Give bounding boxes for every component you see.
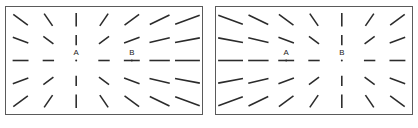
radial-line-segment: [125, 96, 140, 107]
radial-line-segment: [100, 95, 108, 107]
radial-line-segment: [44, 95, 52, 107]
radial-line-segment: [248, 78, 268, 83]
right-panel: AB: [215, 6, 413, 115]
point-marker-b: [131, 60, 133, 62]
radial-line-segment: [279, 14, 294, 25]
radial-line-segment: [218, 38, 243, 43]
radial-line-segment: [218, 15, 243, 24]
figure-root: ABAB: [0, 0, 418, 128]
radial-line-segment: [218, 79, 243, 84]
radial-line-segment: [218, 97, 243, 106]
radial-line-segment: [390, 96, 405, 107]
radial-line-segment: [310, 14, 318, 26]
radial-line-segment: [175, 97, 200, 106]
right-panel-canvas: AB: [216, 7, 412, 114]
left-panel: AB: [5, 6, 203, 115]
radial-line-segment: [390, 14, 405, 25]
radial-line-segment: [310, 95, 318, 107]
radial-line-segment: [44, 14, 52, 26]
radial-line-segment: [99, 36, 109, 43]
radial-line-segment: [249, 96, 269, 106]
radial-line-segment: [365, 14, 373, 26]
point-label-b: B: [339, 48, 344, 57]
radial-line-segment: [150, 38, 170, 43]
radial-line-segment: [43, 77, 53, 84]
radial-line-segment: [150, 78, 170, 83]
point-marker-a: [285, 60, 287, 62]
radial-line-segment: [309, 77, 319, 84]
radial-line-segment: [175, 15, 200, 24]
point-label-a: A: [74, 48, 80, 57]
radial-line-segment: [150, 15, 170, 25]
left-panel-canvas: AB: [6, 7, 202, 114]
radial-line-segment: [13, 96, 28, 107]
radial-line-segment: [13, 37, 28, 43]
radial-line-segment: [365, 95, 373, 107]
radial-line-segment: [390, 78, 405, 84]
radial-line-segment: [124, 37, 139, 43]
point-marker-a: [75, 60, 77, 62]
radial-line-segment: [175, 79, 200, 84]
radial-line-segment: [13, 14, 28, 25]
radial-line-segment: [150, 96, 170, 106]
radial-line-segment: [309, 36, 319, 43]
radial-line-segment: [248, 38, 268, 43]
point-label-b: B: [129, 48, 134, 57]
radial-line-segment: [99, 77, 109, 84]
radial-line-segment: [125, 14, 140, 25]
radial-line-segment: [175, 38, 200, 43]
radial-line-segment: [100, 14, 108, 26]
radial-line-segment: [43, 36, 53, 43]
radial-line-segment: [278, 78, 293, 84]
point-marker-b: [341, 60, 343, 62]
radial-line-segment: [278, 37, 293, 43]
radial-line-segment: [365, 77, 375, 84]
radial-line-segment: [13, 78, 28, 84]
radial-line-segment: [390, 37, 405, 43]
radial-line-segment: [279, 96, 294, 107]
radial-line-segment: [124, 78, 139, 84]
radial-line-segment: [249, 15, 269, 25]
point-label-a: A: [284, 48, 290, 57]
radial-line-segment: [365, 36, 375, 43]
